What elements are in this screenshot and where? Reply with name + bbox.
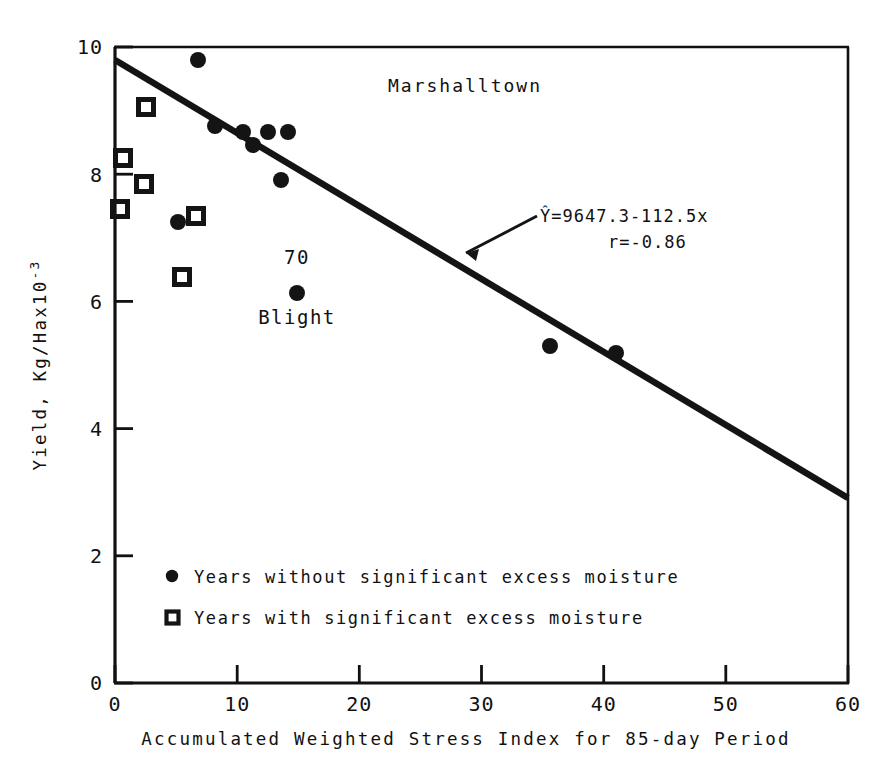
- y-axis-title-group: Yield, Kg/Hax10-3: [27, 259, 50, 470]
- y-axis-tick-labels: 0 2 4 6 8 10: [77, 35, 103, 695]
- y-tick-label-10: 10: [77, 35, 103, 59]
- fit-equation-label: Ŷ=9647.3-112.5x: [540, 205, 709, 226]
- y-tick-label-0: 0: [90, 671, 103, 695]
- data-point-filled-circle-blight: [289, 285, 305, 301]
- x-tick-label-60: 60: [835, 692, 861, 716]
- legend-item-with-excess-moisture: Years with significant excess moisture: [167, 608, 644, 628]
- data-point-open-square: [139, 100, 154, 115]
- y-axis-title-exponent: -3: [27, 259, 42, 279]
- data-point-filled-circle: [170, 214, 186, 230]
- legend-label-without-excess-moisture: Years without significant excess moistur…: [194, 567, 679, 587]
- legend-label-with-excess-moisture: Years with significant excess moisture: [194, 608, 644, 628]
- x-tick-label-40: 40: [591, 692, 617, 716]
- y-tick-label-8: 8: [90, 163, 103, 187]
- x-tick-label-20: 20: [346, 692, 372, 716]
- y-tick-label-2: 2: [90, 544, 103, 568]
- x-axis-ticks: [115, 665, 848, 683]
- legend-marker-filled-circle-icon: [166, 570, 178, 582]
- data-point-open-square: [175, 270, 190, 285]
- chart-figure: 0 2 4 6 8 10 0 10 20 30 40 50 60 Accumul…: [0, 0, 888, 760]
- correlation-label: r=-0.86: [608, 232, 687, 252]
- data-point-filled-circle: [280, 124, 296, 140]
- data-point-filled-circle: [608, 345, 624, 361]
- data-point-filled-circle: [273, 172, 289, 188]
- x-tick-label-50: 50: [713, 692, 739, 716]
- legend-marker-open-square-icon: [167, 612, 179, 624]
- y-tick-label-6: 6: [90, 290, 103, 314]
- data-point-open-square: [189, 209, 204, 224]
- x-tick-label-30: 30: [468, 692, 494, 716]
- x-tick-label-10: 10: [224, 692, 250, 716]
- x-axis-tick-labels: 0 10 20 30 40 50 60: [108, 692, 861, 716]
- axes-frame: [114, 47, 849, 684]
- annotation-leader-line: [466, 216, 537, 253]
- series-with-excess-moisture-points: [113, 100, 204, 285]
- blight-year-label: 70: [284, 246, 310, 268]
- plot-title: Marshalltown: [388, 75, 542, 96]
- data-point-open-square: [113, 202, 128, 217]
- data-point-filled-circle: [260, 124, 276, 140]
- chart-legend: Years without significant excess moistur…: [166, 567, 679, 628]
- x-axis-title: Accumulated Weighted Stress Index for 85…: [141, 729, 791, 749]
- fit-equation-annotation: Ŷ=9647.3-112.5x r=-0.86: [466, 205, 709, 261]
- regression-fit-line: [115, 60, 848, 498]
- data-point-open-square: [137, 177, 152, 192]
- data-point-filled-circle: [245, 137, 261, 153]
- data-point-filled-circle: [207, 118, 223, 134]
- data-point-filled-circle: [542, 338, 558, 354]
- y-tick-label-4: 4: [90, 417, 103, 441]
- data-point-filled-circle: [190, 52, 206, 68]
- blight-cause-label: Blight: [258, 306, 336, 328]
- scatter-plot-canvas: 0 2 4 6 8 10 0 10 20 30 40 50 60 Accumul…: [0, 0, 888, 760]
- y-axis-title-main: Yield, Kg/Hax10: [30, 280, 50, 471]
- y-axis-ticks: [115, 47, 133, 683]
- data-point-open-square: [116, 151, 131, 166]
- data-point-filled-circle: [235, 124, 251, 140]
- legend-item-without-excess-moisture: Years without significant excess moistur…: [166, 567, 679, 587]
- y-axis-title: Yield, Kg/Hax10-3: [27, 259, 50, 470]
- x-tick-label-0: 0: [108, 692, 121, 716]
